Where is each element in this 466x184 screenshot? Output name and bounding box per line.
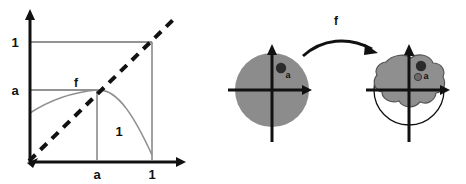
x-tick-label-one: 1 [148, 167, 155, 182]
x-axis-arrowhead-icon [176, 157, 186, 167]
right-panel: a f a [228, 14, 450, 142]
target-x-axis-arrowhead-icon [440, 85, 450, 95]
y-tick-label-one: 1 [11, 35, 18, 50]
target-y-axis-arrowhead-icon [404, 44, 414, 55]
figure-root: 1 a a 1 f 1 a f [0, 0, 466, 184]
y-axis-arrowhead-icon [25, 9, 35, 20]
y-tick-label-a: a [11, 83, 19, 98]
mapping-arrow-label-f: f [334, 14, 339, 28]
target-cloud-group: a [366, 44, 450, 142]
region-label-one: 1 [115, 124, 122, 139]
source-disk-group: a [228, 44, 312, 142]
mapping-arrowhead-icon [364, 44, 378, 55]
mapping-arrow-group: f [303, 14, 378, 56]
source-y-axis-arrowhead-icon [267, 44, 277, 55]
x-tick-label-a: a [93, 167, 101, 182]
curve-label-f: f [74, 76, 79, 90]
left-panel: 1 a a 1 f 1 [11, 9, 186, 182]
identity-diagonal-dashed [29, 17, 176, 161]
target-point-dot [416, 61, 426, 71]
mapping-arrow-curve [303, 41, 372, 56]
target-point-neighborhood [414, 73, 421, 80]
diagram-canvas: 1 a a 1 f 1 a f [0, 0, 466, 184]
